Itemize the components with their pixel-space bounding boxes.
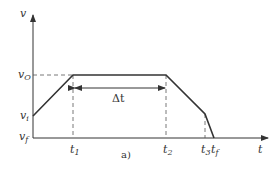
t1-label: t1 [70,144,80,157]
v-o-label: vO [18,69,31,82]
x-axis-label: t [258,144,262,155]
velocity-profile [33,75,214,138]
diagram-canvas [0,0,274,170]
t3-label: t3 [201,144,211,157]
velocity-time-diagram: v t vO vi vf t1 t2 t3 tf Δt a) [0,0,274,170]
figure-caption: a) [121,150,131,160]
v-i-label: vi [20,110,29,123]
delta-t-arrow-left-head [74,85,82,91]
tf-label: tf [211,144,218,157]
v-f-label: vf [19,131,28,144]
y-axis-label: v [20,8,26,19]
t2-label: t2 [163,144,173,157]
delta-t-label: Δt [112,93,124,104]
